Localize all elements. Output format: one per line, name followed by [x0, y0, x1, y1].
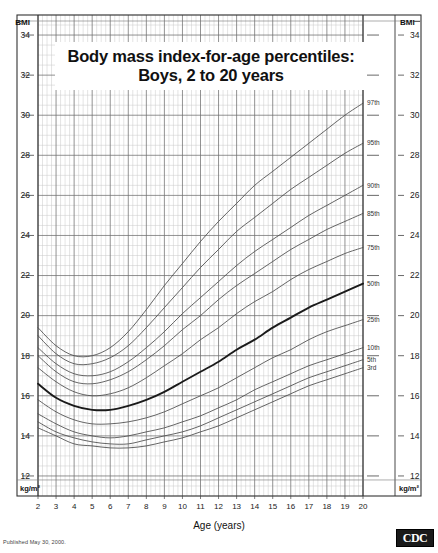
- y-header-left: BMI: [15, 18, 30, 27]
- x-tick-13: 13: [232, 502, 241, 511]
- x-tick-19: 19: [340, 502, 349, 511]
- curve-label-3rd: 3rd: [367, 364, 377, 371]
- y-tick-right-32: 32: [410, 70, 420, 80]
- chart-title-box: Body mass index-for-age percentiles: Boy…: [55, 42, 367, 90]
- y-unit-right: kg/m²: [399, 484, 420, 493]
- curve-label-97th: 97th: [367, 99, 380, 106]
- page-title-line-2: Boys, 2 to 20 years: [138, 66, 284, 85]
- y-tick-right-28: 28: [410, 150, 420, 160]
- published-date: Published May 30, 2000.: [3, 539, 66, 545]
- y-tick-right-14: 14: [410, 431, 420, 441]
- y-tick-left-12: 12: [21, 471, 31, 481]
- y-tick-right-20: 20: [410, 310, 420, 320]
- growth-chart: 1212141416161818202022222424262628283030…: [0, 0, 438, 553]
- y-tick-right-18: 18: [410, 351, 420, 361]
- x-tick-17: 17: [304, 502, 313, 511]
- y-tick-left-28: 28: [21, 150, 31, 160]
- curve-label-25th: 25th: [367, 316, 380, 323]
- x-tick-15: 15: [268, 502, 277, 511]
- y-tick-right-26: 26: [410, 190, 420, 200]
- y-header-right: BMI: [400, 18, 415, 27]
- y-tick-left-22: 22: [21, 270, 31, 280]
- y-tick-right-16: 16: [410, 391, 420, 401]
- x-tick-12: 12: [214, 502, 223, 511]
- curve-label-90th: 90th: [367, 182, 380, 189]
- x-tick-8: 8: [144, 502, 149, 511]
- curve-label-85th: 85th: [367, 210, 380, 217]
- y-tick-left-34: 34: [21, 30, 31, 40]
- y-tick-right-22: 22: [410, 270, 420, 280]
- x-tick-10: 10: [178, 502, 187, 511]
- x-tick-6: 6: [108, 502, 113, 511]
- y-tick-left-32: 32: [21, 70, 31, 80]
- y-tick-right-30: 30: [410, 110, 420, 120]
- y-tick-left-30: 30: [21, 110, 31, 120]
- y-tick-right-34: 34: [410, 30, 420, 40]
- x-tick-20: 20: [359, 502, 368, 511]
- x-tick-11: 11: [196, 502, 205, 511]
- x-tick-16: 16: [286, 502, 295, 511]
- curve-label-50th: 50th: [367, 280, 380, 287]
- page-title-line-1: Body mass index-for-age percentiles:: [67, 47, 354, 66]
- x-tick-3: 3: [54, 502, 59, 511]
- cdc-logo: CDC: [396, 529, 434, 547]
- y-tick-left-24: 24: [21, 230, 31, 240]
- y-tick-right-24: 24: [410, 230, 420, 240]
- y-tick-left-14: 14: [21, 431, 31, 441]
- y-unit-left: kg/m²: [20, 484, 41, 493]
- x-tick-4: 4: [72, 502, 77, 511]
- x-tick-9: 9: [162, 502, 167, 511]
- x-tick-2: 2: [36, 502, 41, 511]
- y-tick-right-12: 12: [410, 471, 420, 481]
- x-tick-5: 5: [90, 502, 95, 511]
- y-tick-left-16: 16: [21, 391, 31, 401]
- x-axis-title: Age (years): [193, 520, 245, 531]
- y-tick-left-18: 18: [21, 351, 31, 361]
- curve-label-95th: 95th: [367, 139, 380, 146]
- y-tick-left-20: 20: [21, 310, 31, 320]
- curve-label-5th: 5th: [367, 356, 376, 363]
- x-tick-18: 18: [322, 502, 331, 511]
- curve-label-75th: 75th: [367, 244, 380, 251]
- x-tick-7: 7: [126, 502, 131, 511]
- curve-label-10th: 10th: [367, 344, 380, 351]
- y-tick-left-26: 26: [21, 190, 31, 200]
- x-tick-14: 14: [250, 502, 259, 511]
